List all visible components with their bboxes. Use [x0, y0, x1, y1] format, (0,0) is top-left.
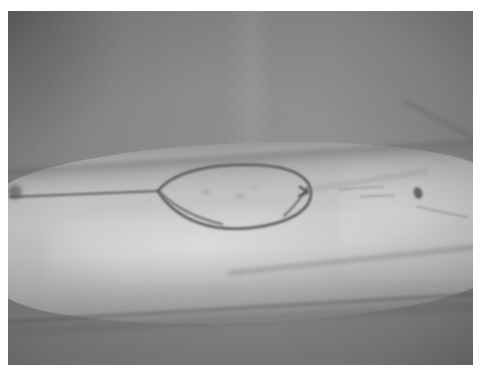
photograph-plate	[8, 11, 473, 365]
photograph-frame: Grayscale photograph of a human forearm …	[0, 0, 483, 377]
film-grain-layer-secondary	[8, 11, 473, 365]
